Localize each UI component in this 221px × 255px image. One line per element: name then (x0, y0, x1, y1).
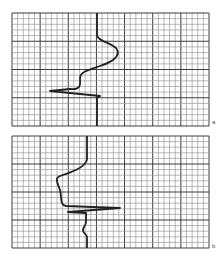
grid-chart-b (0, 0, 221, 255)
panel-label-b: b (212, 243, 215, 249)
ecg-panel-b: b (0, 0, 221, 255)
